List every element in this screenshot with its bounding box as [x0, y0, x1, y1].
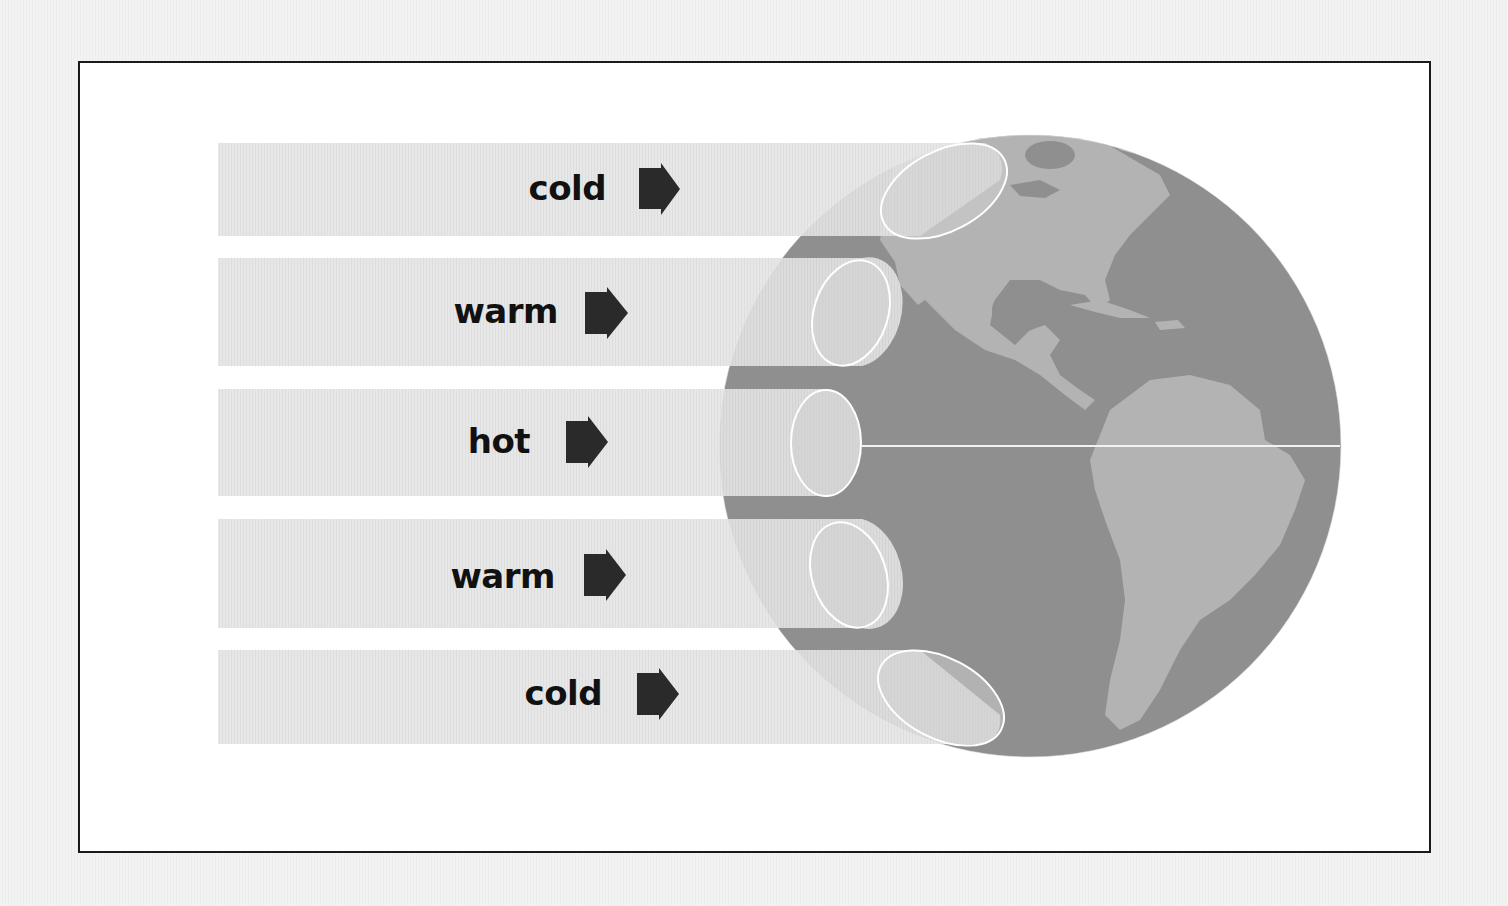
diagram-canvas	[0, 0, 1508, 906]
gulf-of-mexico	[992, 288, 1048, 332]
band-label-cold-south: cold	[476, 676, 602, 710]
band-hot-equator	[218, 389, 861, 496]
band-label-hot: hot	[420, 424, 530, 458]
band-label-warm-south: warm	[417, 559, 555, 593]
ellipse-hot	[791, 390, 861, 496]
band-label-cold-north: cold	[480, 171, 606, 205]
hudson-bay	[1025, 141, 1075, 169]
band-warm-south	[218, 519, 903, 629]
band-warm-north	[218, 257, 903, 366]
band-label-warm-north: warm	[420, 294, 558, 328]
